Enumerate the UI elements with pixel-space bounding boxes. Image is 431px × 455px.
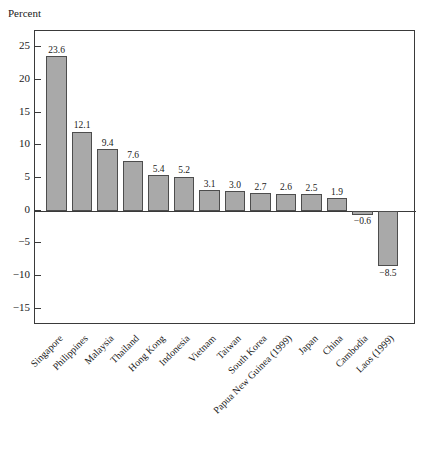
bar [250,193,270,211]
bar [148,175,168,210]
x-axis-category-label: Laos (1999) [176,333,396,455]
bar-chart: Percent 23.612.19.47.65.45.23.13.02.72.6… [0,0,431,455]
bar-value-label: 5.2 [166,165,202,175]
x-axis-category-label: China [125,333,345,455]
y-axis-tick-label: 20 [4,73,30,84]
bar-value-label: −0.6 [344,216,380,226]
y-axis-tick-label: −10 [4,269,30,280]
bar [301,194,321,210]
bar [276,194,296,211]
y-axis-tick-label: 0 [4,204,30,215]
y-axis-tick-mark [34,46,41,47]
bar-value-label: 7.6 [115,150,151,160]
y-axis-tick-label: 15 [4,106,30,117]
plot-area: 23.612.19.47.65.45.23.13.02.72.62.51.9−0… [34,30,415,324]
y-axis-tick-mark [34,308,41,309]
bar-value-label: −8.5 [370,268,406,278]
bar [352,211,372,215]
y-axis-tick-label: 25 [4,40,30,51]
y-axis-tick-label: 5 [4,171,30,182]
bar-value-label: 12.1 [64,120,100,130]
x-axis-category-label: South Korea [49,333,269,455]
y-axis-tick-label: −5 [4,236,30,247]
x-axis-category-label: Japan [99,333,319,455]
bar [199,190,219,210]
x-axis-category-label: Cambodia [150,333,370,455]
y-axis-tick-label: −15 [4,302,30,313]
y-axis-tick-mark [34,210,41,211]
x-axis-category-label: Papua New Guinea (1999) [74,333,294,455]
y-axis-tick-labels: 2520151050−5−10−15 [0,0,30,455]
y-axis-tick-mark [34,144,41,145]
y-axis-tick-label: 10 [4,138,30,149]
bar-value-label: 23.6 [38,45,74,55]
bar-value-label: 1.9 [319,187,355,197]
y-axis-tick-mark [34,177,41,178]
y-axis-tick-mark [34,112,41,113]
y-axis-tick-mark [34,242,41,243]
y-axis-tick-mark [34,79,41,80]
x-axis-category-label: Taiwan [23,333,243,455]
bar [378,211,398,267]
bar [46,56,66,210]
y-axis-tick-mark [34,275,41,276]
bar [327,198,347,210]
bar-value-label: 9.4 [89,138,125,148]
bar [225,191,245,211]
x-axis-category-label: Vietnam [0,333,217,455]
